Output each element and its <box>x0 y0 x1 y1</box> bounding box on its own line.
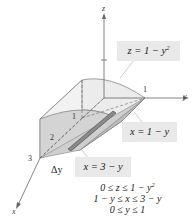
inequality-x: 1 − y ≤ x ≤ 3 − y <box>60 194 195 204</box>
label-front-surface: x = 3 − y <box>75 157 131 177</box>
y-tick-label: 1 <box>143 85 147 94</box>
slice-label: Δy <box>51 164 62 175</box>
label-top-surface-text: z = 1 − y <box>128 45 167 56</box>
label-top-surface: z = 1 − y2 <box>117 41 180 61</box>
x-axis-arrow <box>16 202 21 209</box>
x-tick-3: 3 <box>28 154 32 163</box>
inequality-z-exp: 2 <box>151 181 154 188</box>
x-axis <box>18 158 40 205</box>
x-axis-label: x <box>12 207 16 216</box>
leader-line-top <box>120 60 134 78</box>
x-tick-2: 2 <box>50 133 54 142</box>
inequality-z-text: 0 ≤ z ≤ 1 − y <box>100 182 151 193</box>
label-back-surface: x = 1 − y <box>122 122 177 142</box>
leader-line-back <box>134 112 142 122</box>
z-axis-label: z <box>102 4 105 13</box>
inequality-y: 0 ≤ y ≤ 1 <box>60 205 195 215</box>
label-top-surface-exp: 2 <box>166 44 169 51</box>
z-axis-arrow <box>102 13 106 19</box>
x-tick-1: 1 <box>72 112 76 121</box>
inequality-z: 0 ≤ z ≤ 1 − y2 <box>60 183 195 193</box>
y-axis-label: y <box>183 92 187 101</box>
